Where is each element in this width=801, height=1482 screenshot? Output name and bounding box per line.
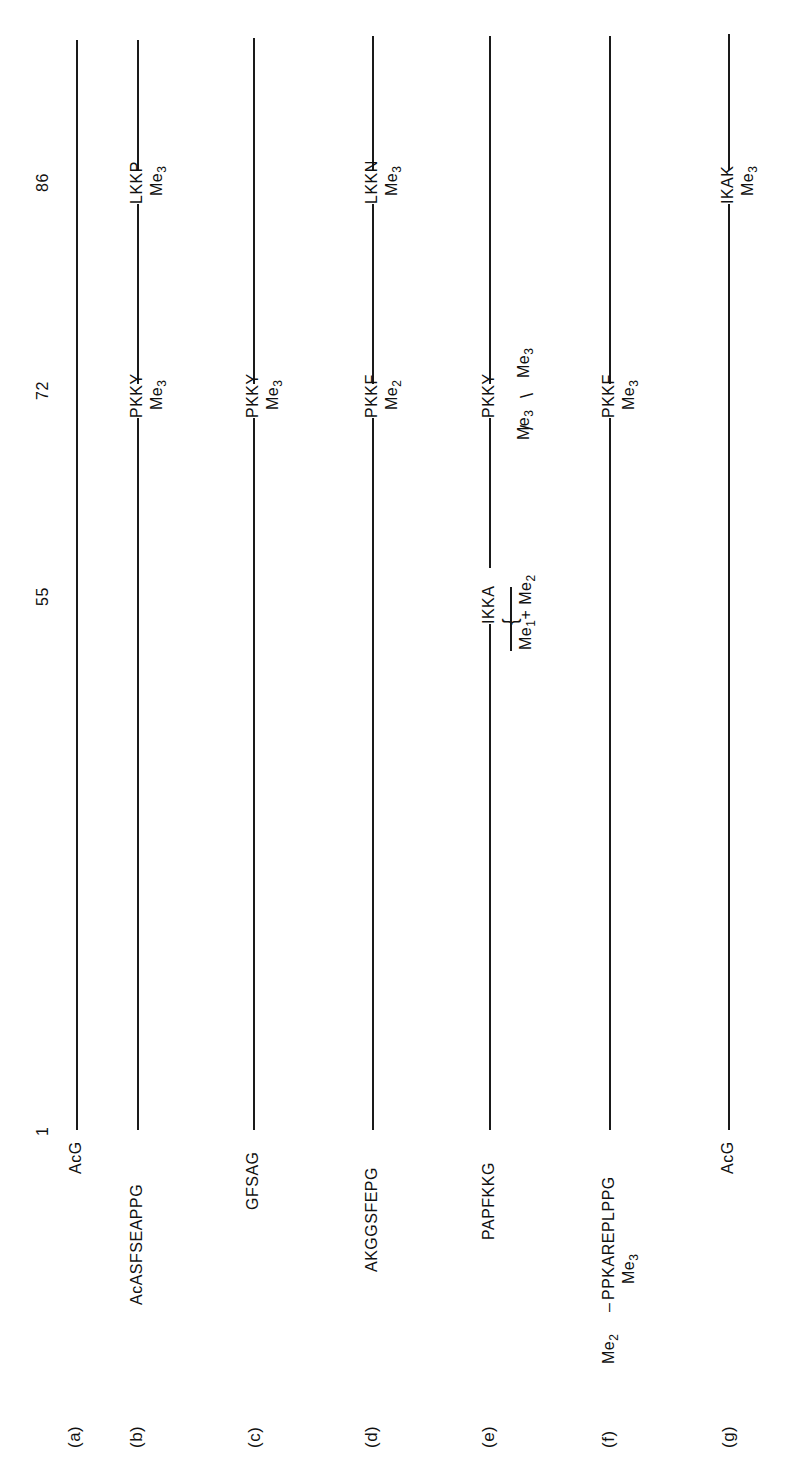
site-72-methyl: Me3	[265, 380, 284, 410]
site-86-methyl: Me3	[149, 166, 168, 196]
site-72-sequence: PKKF	[601, 374, 617, 418]
n-terminus: AcASFSEAPPG	[129, 1184, 145, 1305]
sequence-line	[253, 38, 255, 384]
sequence-line	[489, 624, 491, 1130]
sequence-line	[489, 36, 491, 384]
sequence-line	[728, 34, 730, 170]
row-label: (b)	[128, 1426, 145, 1448]
sequence-line	[253, 418, 255, 1130]
site-86-methyl: Me3	[384, 166, 403, 196]
row-label: (g)	[720, 1426, 737, 1448]
row-label: (f)	[600, 1430, 617, 1448]
n-terminus: AKGGSFEPG	[364, 1167, 380, 1272]
sequence-line	[137, 204, 139, 384]
sequence-line	[137, 418, 139, 1130]
sequence-line	[609, 418, 611, 1130]
n-terminus: GFSAG	[245, 1151, 261, 1210]
row-label: (a)	[66, 1426, 83, 1448]
site-72-methyl-b: Me3	[516, 410, 535, 440]
site-86-sequence: LKKN	[364, 160, 380, 204]
site-72-sequence: PKKF	[364, 374, 380, 418]
sequence-line	[372, 204, 374, 384]
n-terminus: PAPFKKG	[481, 1162, 497, 1240]
n-terminus: AcG	[68, 1141, 84, 1174]
n-terminus: PPKAREPLPPG	[601, 1176, 617, 1300]
site-86-sequence: IKAK	[720, 166, 736, 204]
position-label-1: 1	[35, 1127, 51, 1136]
site-72-methyl: Me3	[149, 380, 168, 410]
sequence-line	[372, 418, 374, 1130]
site-72-sequence: PKKY	[481, 373, 497, 418]
site-72-sequence: PKKY	[129, 373, 145, 418]
site-55-sequence: IKKA	[481, 586, 497, 624]
row-label: (e)	[480, 1426, 497, 1448]
position-label-86: 86	[35, 173, 51, 192]
sequence-line	[137, 40, 139, 170]
site-55-methyl: Me1+ Me2	[518, 574, 537, 650]
site-72-methyl: Me3	[621, 380, 640, 410]
site-86-methyl: Me3	[740, 166, 759, 196]
row-label: (c)	[246, 1427, 263, 1448]
sequence-line	[372, 36, 374, 170]
site-72-methyl: Me2	[384, 380, 403, 410]
row-label: (d)	[363, 1426, 380, 1448]
position-label-55: 55	[35, 587, 51, 606]
n-terminus-dash: –	[601, 1303, 617, 1312]
sequence-line	[609, 36, 611, 384]
n-terminus-dimethyl: Me2	[601, 1334, 620, 1364]
sequence-line	[76, 40, 78, 1130]
sequence-line	[489, 418, 491, 568]
brace-bar	[510, 587, 512, 651]
site-86-sequence: LKKP	[129, 161, 145, 204]
site-72-sequence: PKKY	[245, 373, 261, 418]
site-72-methyl-a: Me3	[516, 348, 535, 378]
sequence-line	[728, 204, 730, 1130]
branch-slash: \	[518, 392, 536, 398]
position-label-72: 72	[35, 381, 51, 400]
n-terminus: AcG	[720, 1141, 736, 1174]
n-terminus-lysine-methyl: Me3	[621, 1254, 640, 1284]
